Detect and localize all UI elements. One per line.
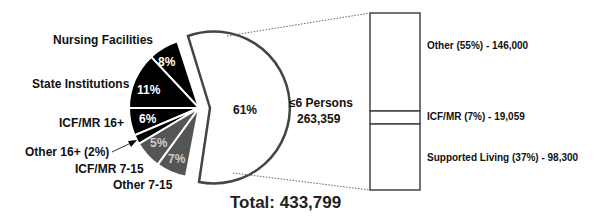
pct-nursing: 8% <box>158 55 175 69</box>
label-other-7-15: Other 7-15 <box>113 178 172 192</box>
pct-icf16: 6% <box>139 112 156 126</box>
label-state-institutions: State Institutions <box>32 77 129 91</box>
pct-state: 11% <box>137 83 160 97</box>
pct-other715: 7% <box>168 152 185 166</box>
bar-label-icf: ICF/MR (7%) - 19,059 <box>427 111 525 122</box>
label-6-persons: ≤6 Persons <box>289 96 353 110</box>
pct-6-persons: 61% <box>233 103 257 117</box>
bar-label-supported-living: Supported Living (37%) - 98,300 <box>427 152 578 163</box>
breakdown-bar <box>370 13 420 190</box>
pct-icf715: 5% <box>150 136 167 150</box>
label-nursing-facilities: Nursing Facilities <box>53 33 153 47</box>
value-6-persons: 263,359 <box>297 112 340 126</box>
label-icf-16plus: ICF/MR 16+ <box>59 116 124 130</box>
bar-label-other: Other (55%) - 146,000 <box>427 40 528 51</box>
label-other-16plus: Other 16+ (2%) <box>25 145 109 159</box>
total-label: Total: 433,799 <box>230 193 341 213</box>
label-icf-7-15: ICF/MR 7-15 <box>75 162 144 176</box>
